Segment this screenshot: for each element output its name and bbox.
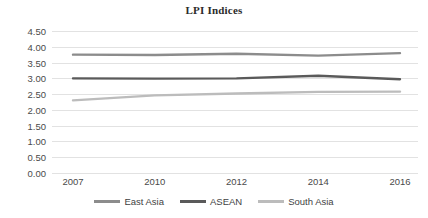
legend-item-south-asia[interactable]: South Asia bbox=[258, 196, 333, 207]
legend-swatch-icon bbox=[180, 200, 206, 203]
y-axis-tick-label: 1.00 bbox=[0, 136, 46, 147]
x-axis-tick-label: 2012 bbox=[226, 176, 247, 187]
series-lines bbox=[52, 31, 418, 173]
chart-title: LPI Indices bbox=[0, 4, 428, 16]
legend-label: South Asia bbox=[288, 196, 333, 207]
legend-label: ASEAN bbox=[210, 196, 242, 207]
y-axis-tick-label: 1.50 bbox=[0, 120, 46, 131]
series-line-south-asia bbox=[73, 92, 400, 101]
y-axis-tick-label: 0.00 bbox=[0, 168, 46, 179]
legend-label: East Asia bbox=[124, 196, 164, 207]
legend-item-east-asia[interactable]: East Asia bbox=[94, 196, 164, 207]
x-axis-tick-label: 2010 bbox=[144, 176, 165, 187]
y-axis-tick-label: 2.00 bbox=[0, 104, 46, 115]
y-axis-tick-label: 3.00 bbox=[0, 73, 46, 84]
x-axis: 20072010201220142016 bbox=[52, 176, 418, 190]
x-axis-tick-label: 2014 bbox=[308, 176, 329, 187]
chart-legend: East AsiaASEANSouth Asia bbox=[0, 196, 428, 207]
x-axis-tick-label: 2016 bbox=[389, 176, 410, 187]
series-line-east-asia bbox=[73, 53, 400, 56]
y-axis-tick-label: 3.50 bbox=[0, 57, 46, 68]
plot-area bbox=[52, 31, 418, 173]
legend-swatch-icon bbox=[94, 200, 120, 203]
series-line-asean bbox=[73, 76, 400, 79]
x-axis-tick-label: 2007 bbox=[62, 176, 83, 187]
gridline bbox=[52, 173, 418, 174]
y-axis-tick-label: 2.50 bbox=[0, 89, 46, 100]
legend-item-asean[interactable]: ASEAN bbox=[180, 196, 242, 207]
y-axis-tick-label: 4.00 bbox=[0, 41, 46, 52]
chart-figure: LPI Indices 0.000.501.001.502.002.503.00… bbox=[0, 0, 428, 218]
y-axis-tick-label: 4.50 bbox=[0, 26, 46, 37]
legend-swatch-icon bbox=[258, 200, 284, 203]
y-axis-tick-label: 0.50 bbox=[0, 152, 46, 163]
